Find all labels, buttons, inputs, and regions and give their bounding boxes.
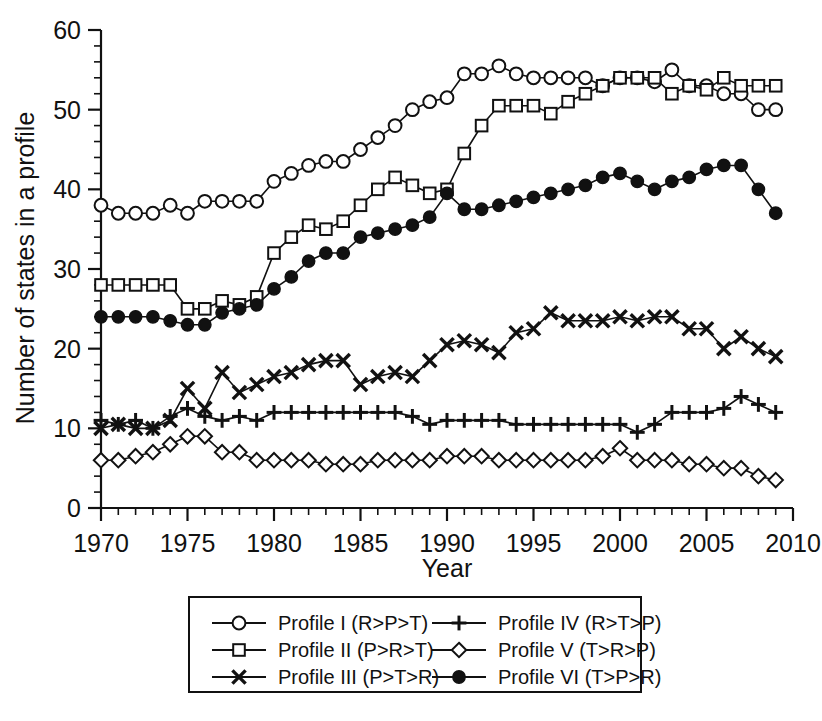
marker-open-square [164,279,176,291]
x-tick-label: 1970 [73,529,129,557]
marker-open-square [182,303,194,315]
marker-open-circle [458,67,471,80]
marker-cross [440,338,453,351]
marker-open-circle [666,63,679,76]
marker-open-circle [475,67,488,80]
marker-plus [543,417,558,432]
marker-solid-circle [770,207,782,219]
marker-open-square [407,180,419,192]
marker-open-square [95,279,107,291]
marker-solid-circle [493,199,505,211]
marker-plus [336,405,351,420]
marker-cross [406,370,419,383]
marker-open-diamond [492,453,506,467]
marker-solid-circle [406,219,418,231]
legend-label: Profile II (P>R>T) [278,639,434,661]
marker-open-diamond [336,457,350,471]
marker-open-circle [198,195,211,208]
marker-solid-circle [129,311,141,323]
marker-open-diamond [544,453,558,467]
x-tick-label: 2005 [679,529,735,557]
series-2 [95,72,781,315]
x-tick-label: 2010 [765,529,821,557]
marker-solid-circle [718,159,730,171]
marker-open-circle [233,195,246,208]
marker-solid-circle [389,223,401,235]
marker-solid-circle [251,299,263,311]
marker-open-circle [129,207,142,220]
marker-open-diamond [509,453,523,467]
marker-solid-circle [216,307,228,319]
marker-open-circle [389,119,402,132]
marker-open-diamond [699,457,713,471]
marker-solid-circle [510,195,522,207]
legend-items: Profile I (R>P>T)Profile II (P>R>T)Profi… [212,612,661,688]
legend-label: Profile VI (T>P>R) [498,666,661,688]
marker-open-circle [337,155,350,168]
marker-solid-circle [302,255,314,267]
marker-solid-circle [147,311,159,323]
marker-open-diamond [526,453,540,467]
series-5 [94,429,783,487]
marker-open-circle [95,199,108,212]
marker-open-circle [371,131,384,144]
legend-label: Profile III (P>T>R) [278,666,439,688]
marker-open-square [770,80,782,92]
x-axis-tick-labels: 197019751980198519901995200020052010 [73,529,821,557]
marker-open-circle [510,67,523,80]
line-chart: 0102030405060 19701975198019851990199520… [0,0,822,721]
marker-cross [752,342,765,355]
marker-open-diamond [457,449,471,463]
x-tick-label: 1975 [160,529,216,557]
marker-cross [354,378,367,391]
marker-open-square [718,72,730,84]
marker-solid-circle [453,671,465,683]
marker-open-diamond [561,453,575,467]
marker-cross [250,378,263,391]
marker-cross [735,330,748,343]
marker-open-circle [769,103,782,116]
marker-cross [267,370,280,383]
marker-cross [613,310,626,323]
marker-open-square [268,247,280,259]
marker-open-square [199,303,211,315]
marker-solid-circle [475,203,487,215]
marker-open-diamond [405,453,419,467]
marker-open-circle [579,71,592,84]
marker-solid-circle [181,319,193,331]
marker-open-square [130,279,142,291]
marker-solid-circle [527,191,539,203]
marker-solid-circle [614,167,626,179]
marker-plus [647,417,662,432]
marker-plus [180,401,195,416]
marker-open-diamond [596,449,610,463]
marker-plus [682,405,697,420]
series-line [101,396,776,432]
marker-open-square [459,148,471,160]
marker-solid-circle [337,247,349,259]
marker-solid-circle [562,183,574,195]
marker-solid-circle [683,171,695,183]
marker-solid-circle [320,247,332,259]
marker-plus [232,409,247,424]
marker-solid-circle [354,231,366,243]
marker-plus [492,413,507,428]
marker-cross [544,306,557,319]
marker-open-diamond [630,453,644,467]
series-line [101,165,776,324]
marker-open-square [493,100,505,112]
marker-open-circle [181,207,194,220]
marker-solid-circle [648,183,660,195]
marker-cross [285,366,298,379]
marker-solid-circle [372,227,384,239]
marker-plus [595,417,610,432]
marker-open-circle [112,207,125,220]
x-tick-label: 2000 [592,529,648,557]
marker-plus [422,417,437,432]
marker-solid-circle [597,171,609,183]
marker-solid-circle [268,283,280,295]
marker-open-diamond [232,445,246,459]
marker-plus [440,413,455,428]
series-1 [95,59,783,219]
marker-open-diamond [163,437,177,451]
